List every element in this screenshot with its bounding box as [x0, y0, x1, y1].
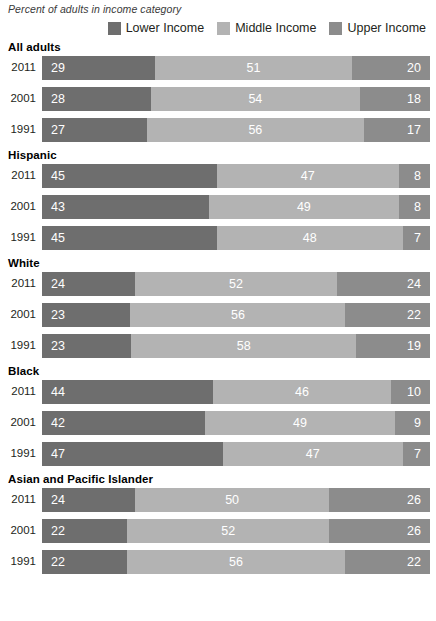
- bar-segment-upper: 19: [356, 334, 430, 358]
- row-year-label: 2001: [6, 417, 42, 429]
- bar-segment-middle: 52: [127, 519, 329, 543]
- bar-segment-value: 52: [229, 278, 243, 291]
- stacked-bar: 42499: [42, 411, 430, 435]
- bar-segment-value: 26: [407, 525, 421, 538]
- bar-segment-upper: 17: [364, 118, 430, 142]
- bar-segment-upper: 7: [403, 442, 430, 466]
- group-title: Black: [6, 365, 430, 377]
- bar-segment-value: 9: [414, 417, 421, 430]
- stacked-bar: 295120: [42, 56, 430, 80]
- bar-segment-lower: 42: [42, 411, 205, 435]
- row-year-label: 2011: [6, 386, 42, 398]
- row-year-label: 2001: [6, 93, 42, 105]
- bar-segment-lower: 28: [42, 87, 151, 111]
- bar-segment-value: 17: [407, 124, 421, 137]
- bar-segment-upper: 9: [395, 411, 430, 435]
- row-year-label: 2011: [6, 494, 42, 506]
- row-year-label: 1991: [6, 124, 42, 136]
- bar-segment-value: 48: [303, 232, 317, 245]
- bar-segment-value: 24: [407, 278, 421, 291]
- bar-segment-middle: 47: [223, 442, 404, 466]
- legend-swatch-middle-icon: [217, 22, 230, 35]
- bar-segment-value: 29: [51, 62, 65, 75]
- legend-item-upper: Upper Income: [329, 22, 426, 35]
- chart-group: Black2011444610200142499199147477: [6, 365, 430, 466]
- legend-label: Lower Income: [126, 22, 205, 35]
- chart-group: Asian and Pacific Islander20112450262001…: [6, 473, 430, 574]
- bar-segment-lower: 24: [42, 272, 135, 296]
- bar-segment-lower: 29: [42, 56, 155, 80]
- bar-segment-lower: 23: [42, 303, 130, 327]
- bar-segment-upper: 26: [329, 488, 430, 512]
- bar-segment-value: 56: [248, 124, 262, 137]
- bar-segment-middle: 56: [130, 303, 345, 327]
- row-year-label: 1991: [6, 448, 42, 460]
- group-title: White: [6, 257, 430, 269]
- bar-segment-middle: 51: [155, 56, 353, 80]
- bar-segment-lower: 43: [42, 195, 209, 219]
- stacked-bar: 45478: [42, 164, 430, 188]
- row-year-label: 2011: [6, 170, 42, 182]
- bar-segment-value: 46: [295, 386, 309, 399]
- bar-segment-value: 19: [407, 340, 421, 353]
- bar-segment-value: 44: [51, 386, 65, 399]
- bar-segment-value: 56: [229, 556, 243, 569]
- bar-segment-value: 49: [297, 201, 311, 214]
- stacked-bar: 45487: [42, 226, 430, 250]
- bar-segment-value: 8: [414, 170, 421, 183]
- bar-segment-value: 47: [301, 170, 315, 183]
- bar-segment-upper: 26: [329, 519, 430, 543]
- bar-segment-middle: 56: [127, 550, 344, 574]
- bar-segment-upper: 24: [337, 272, 430, 296]
- chart-row: 199145487: [6, 226, 430, 250]
- row-year-label: 1991: [6, 340, 42, 352]
- stacked-bar: 225226: [42, 519, 430, 543]
- chart-row: 2001235622: [6, 303, 430, 327]
- stacked-bar: 444610: [42, 380, 430, 404]
- bar-segment-value: 56: [231, 309, 245, 322]
- stacked-bar-chart: Percent of adults in income category Low…: [0, 0, 436, 621]
- bar-segment-value: 22: [407, 309, 421, 322]
- stacked-bar: 275617: [42, 118, 430, 142]
- bar-segment-value: 22: [51, 525, 65, 538]
- bar-segment-lower: 22: [42, 519, 127, 543]
- bar-segment-lower: 27: [42, 118, 147, 142]
- bar-segment-value: 27: [51, 124, 65, 137]
- stacked-bar: 235819: [42, 334, 430, 358]
- bar-segment-upper: 7: [403, 226, 430, 250]
- bar-segment-middle: 49: [205, 411, 395, 435]
- bar-segment-value: 24: [51, 494, 65, 507]
- bar-segment-value: 10: [407, 386, 421, 399]
- group-title: Hispanic: [6, 149, 430, 161]
- chart-group: All adults201129512020012854181991275617: [6, 41, 430, 142]
- bar-segment-value: 22: [51, 556, 65, 569]
- bar-segment-value: 45: [51, 170, 65, 183]
- bar-segment-lower: 45: [42, 226, 217, 250]
- group-title: Asian and Pacific Islander: [6, 473, 430, 485]
- bar-segment-middle: 48: [217, 226, 403, 250]
- row-year-label: 2011: [6, 278, 42, 290]
- bar-segment-value: 23: [51, 309, 65, 322]
- bar-segment-middle: 49: [209, 195, 399, 219]
- bar-segment-value: 45: [51, 232, 65, 245]
- bar-segment-upper: 10: [391, 380, 430, 404]
- bar-segment-lower: 47: [42, 442, 223, 466]
- chart-row: 1991235819: [6, 334, 430, 358]
- bar-segment-upper: 22: [345, 303, 430, 327]
- bar-segment-value: 54: [248, 93, 262, 106]
- bar-segment-value: 8: [414, 201, 421, 214]
- bar-segment-value: 51: [247, 62, 261, 75]
- bar-segment-value: 58: [237, 340, 251, 353]
- bar-segment-value: 7: [414, 232, 421, 245]
- bar-segment-lower: 22: [42, 550, 127, 574]
- chart-row: 201145478: [6, 164, 430, 188]
- row-year-label: 2001: [6, 525, 42, 537]
- bar-segment-value: 23: [51, 340, 65, 353]
- row-year-label: 2001: [6, 201, 42, 213]
- bar-segment-upper: 8: [399, 195, 430, 219]
- stacked-bar: 235622: [42, 303, 430, 327]
- chart-row: 2011245224: [6, 272, 430, 296]
- stacked-bar: 285418: [42, 87, 430, 111]
- chart-row: 2001285418: [6, 87, 430, 111]
- legend-label: Upper Income: [347, 22, 426, 35]
